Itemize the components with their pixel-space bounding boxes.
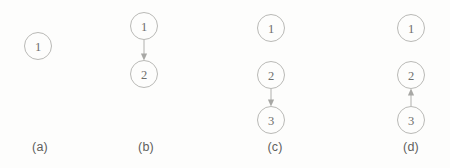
panel-caption-d: (d)	[381, 141, 441, 154]
panel-caption-a: (a)	[10, 141, 70, 154]
panel-b: 12	[131, 13, 158, 88]
graph-node: 2	[131, 61, 158, 88]
panel-caption-c: (c)	[245, 141, 305, 154]
panel-d: 123	[398, 15, 425, 134]
node-label: 2	[408, 69, 414, 83]
panel-caption-b: (b)	[116, 141, 176, 154]
graph-node: 2	[258, 62, 285, 89]
graph-node: 1	[258, 15, 285, 42]
node-label: 2	[268, 69, 274, 83]
edge-3-to-2	[408, 89, 414, 107]
panel-a: 1	[25, 33, 52, 60]
graph-node: 1	[25, 33, 52, 60]
node-label: 1	[141, 20, 147, 34]
arrowhead-icon	[408, 89, 414, 96]
arrowhead-icon	[268, 100, 274, 107]
node-label: 3	[268, 114, 274, 128]
edge-2-to-3	[268, 89, 274, 107]
node-label: 1	[268, 22, 274, 36]
graph-node: 3	[398, 107, 425, 134]
figure-canvas: 112123123 (a)(b)(c)(d)	[0, 0, 450, 168]
graph-node: 2	[398, 62, 425, 89]
node-label: 1	[35, 40, 41, 54]
graph-node: 1	[131, 13, 158, 40]
edge-1-to-2	[141, 40, 147, 61]
graph-node: 3	[258, 107, 285, 134]
panel-c: 123	[258, 15, 285, 134]
node-label: 3	[408, 114, 414, 128]
node-label: 2	[141, 68, 147, 82]
arrowhead-icon	[141, 54, 147, 61]
node-label: 1	[408, 22, 414, 36]
graph-node: 1	[398, 15, 425, 42]
